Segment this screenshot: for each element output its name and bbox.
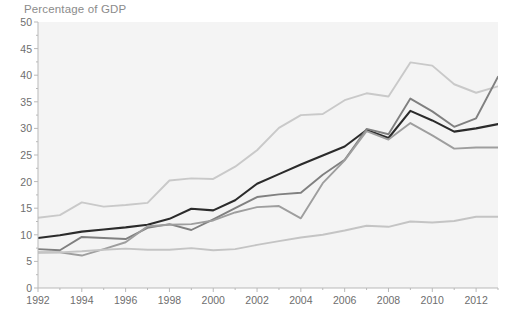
x-axis-tick-label: 1992 [26,294,49,306]
x-axis-tick-label: 2000 [202,294,225,306]
y-axis-tick-label: 50 [10,16,32,28]
chart-container: Percentage of GDP 05101520253035404550 1… [0,0,515,318]
x-axis-tick-label: 2012 [464,294,487,306]
x-axis-tick-label: 1996 [114,294,137,306]
line-series-series-dark [38,111,498,238]
y-axis-tick-label: 10 [10,229,32,241]
y-axis-tick-label: 30 [10,122,32,134]
x-axis-tick-label: 2004 [289,294,312,306]
x-axis-tick-label: 1998 [158,294,181,306]
line-series-series-top-light [38,62,498,217]
y-axis-tick-label: 15 [10,202,32,214]
line-series-series-light-gray [38,123,498,255]
line-series-series-mid-gray [38,77,498,250]
y-axis-tick-label: 35 [10,96,32,108]
x-axis-tick-labels: 1992199419961998200020022004200620082010… [38,294,498,310]
x-axis-tick-label: 2002 [245,294,268,306]
x-axis-tick-label: 2006 [333,294,356,306]
y-axis-tick-label: 0 [10,282,32,294]
x-axis-tick-label: 2010 [421,294,444,306]
chart-title: Percentage of GDP [24,3,126,15]
y-axis-tick-label: 40 [10,69,32,81]
y-axis-tick-label: 5 [10,255,32,267]
y-axis-tick-label: 20 [10,176,32,188]
x-axis-tick-label: 1994 [70,294,93,306]
line-chart-svg [38,22,498,288]
x-axis-tick-label: 2008 [377,294,400,306]
plot-area [38,22,498,288]
y-axis-tick-labels: 05101520253035404550 [8,22,32,288]
y-axis-tick-label: 45 [10,43,32,55]
y-axis-tick-label: 25 [10,149,32,161]
